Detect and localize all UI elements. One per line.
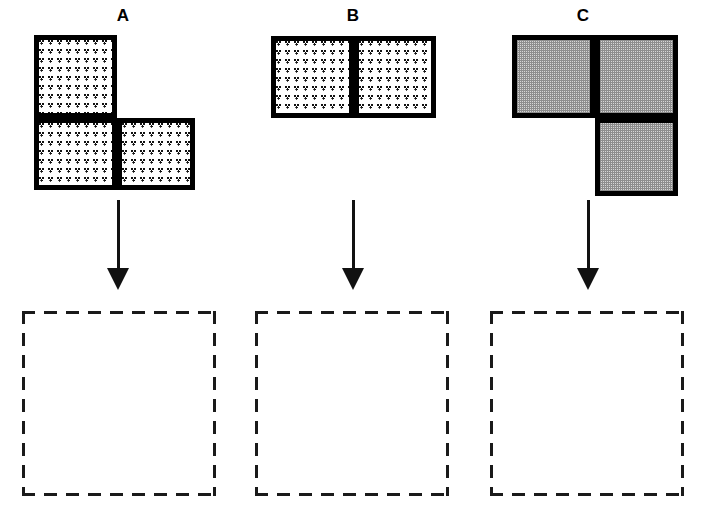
target-box-a-edge-right xyxy=(213,311,216,496)
shape-c-cell-top-left xyxy=(512,35,595,118)
arrow-shaft-c xyxy=(587,200,590,270)
shape-label-c: C xyxy=(563,6,603,26)
arrow-head-a xyxy=(107,268,129,290)
target-box-c-edge-right xyxy=(681,311,684,496)
target-box-b[interactable] xyxy=(255,311,449,496)
target-box-b-edge-top xyxy=(255,311,449,314)
shape-label-a: A xyxy=(103,6,143,26)
shape-a-l-tromino-dotted[interactable] xyxy=(34,35,200,201)
shape-a-cell-bottom-left xyxy=(34,118,117,190)
target-box-a-edge-top xyxy=(22,311,216,314)
target-box-c[interactable] xyxy=(490,311,684,496)
shape-c-cell-top-right xyxy=(595,35,678,118)
target-box-a-edge-left xyxy=(22,311,25,496)
arrow-shaft-a xyxy=(117,200,120,270)
shape-b-domino-dotted[interactable] xyxy=(271,36,437,119)
target-box-a-edge-bottom xyxy=(22,493,216,496)
arrow-down-a xyxy=(106,200,130,290)
arrow-head-c xyxy=(577,268,599,290)
arrow-head-b xyxy=(342,268,364,290)
shape-c-cell-bottom-right xyxy=(595,118,678,196)
arrow-down-b xyxy=(341,200,365,290)
arrow-shaft-b xyxy=(352,200,355,270)
shape-a-cell-bottom-right xyxy=(117,118,195,190)
figure-canvas: A B C xyxy=(0,0,702,521)
target-box-c-edge-left xyxy=(490,311,493,496)
shape-a-cell-top-left xyxy=(34,35,117,118)
shape-b-cell-left xyxy=(271,36,354,118)
target-box-b-edge-bottom xyxy=(255,493,449,496)
target-box-c-edge-bottom xyxy=(490,493,684,496)
arrow-down-c xyxy=(576,200,600,290)
target-box-b-edge-left xyxy=(255,311,258,496)
shape-label-b: B xyxy=(333,6,373,26)
shape-b-cell-right xyxy=(354,36,436,118)
target-box-c-edge-top xyxy=(490,311,684,314)
shape-c-l-tromino-gray[interactable] xyxy=(512,35,678,201)
target-box-a[interactable] xyxy=(22,311,216,496)
target-box-b-edge-right xyxy=(446,311,449,496)
